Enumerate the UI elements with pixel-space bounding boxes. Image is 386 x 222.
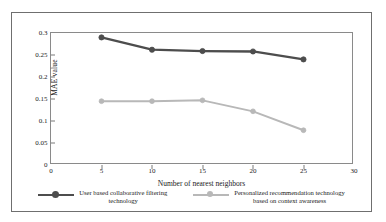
legend-marker-icon [52,191,59,198]
y-axis-tick-label: 0.25 [35,51,47,59]
y-axis-tick-label: 0.2 [39,73,48,81]
y-axis-tick-mark [51,143,55,144]
x-axis-tick-mark [101,165,102,169]
plot-area: MAE value Number of nearest neighbors 00… [50,32,353,164]
x-axis-tick-mark [303,165,304,169]
data-point [200,98,205,103]
y-axis-tick-label: 0.05 [35,139,47,147]
legend-item-0[interactable]: User based collaborative filtering techn… [38,189,167,206]
data-point [301,57,306,62]
legend-swatch [193,190,229,199]
series-0 [99,35,306,62]
y-axis-tick-mark [51,99,55,100]
data-point [149,47,154,52]
y-axis-tick-label: 0.3 [39,29,48,37]
legend-label: User based collaborative filtering techn… [79,189,167,206]
y-axis-tick-mark [51,121,55,122]
data-point [251,109,256,114]
y-axis-tick-label: 0 [44,161,48,169]
legend-marker-icon [207,191,213,197]
x-axis-title: Number of nearest neighbors [51,179,352,188]
x-axis-tick-mark [253,165,254,169]
legend-label: Personalized recommendation technology b… [234,189,345,206]
y-axis-tick-mark [51,77,55,78]
series-container [51,33,354,165]
data-point [150,99,155,104]
legend-swatch [38,190,74,199]
figure-panel: MAE value Number of nearest neighbors 00… [11,12,372,212]
data-point [301,128,306,133]
series-line [102,100,304,130]
y-axis-tick-mark [51,55,55,56]
x-axis-tick-label: 30 [351,167,358,175]
data-point [200,48,205,53]
x-axis-tick-label: 0 [49,167,53,175]
series-1 [99,98,306,133]
data-point [99,99,104,104]
chart-legend: User based collaborative filtering techn… [12,189,371,213]
data-point [99,35,104,40]
data-point [250,49,255,54]
legend-item-1[interactable]: Personalized recommendation technology b… [193,189,345,206]
x-axis-tick-mark [202,165,203,169]
y-axis-tick-label: 0.15 [35,95,47,103]
y-axis-tick-label: 0.1 [39,117,48,125]
x-axis-tick-mark [152,165,153,169]
